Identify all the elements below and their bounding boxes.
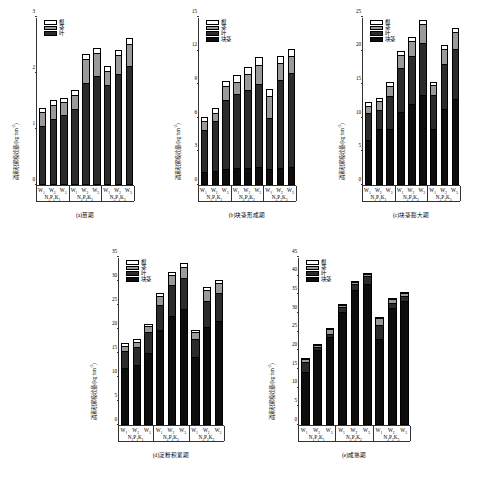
x-group-separator — [427, 186, 428, 201]
stacked-bar[interactable] — [419, 18, 427, 185]
bar-group-N1P1K1 — [119, 258, 154, 425]
legend-item: 根 — [126, 260, 151, 265]
chart-panel-d: 05101520253035根茎叶块茎W1W2W3W1W2W3W1W2W3N1P… — [84, 248, 224, 424]
stacked-bar[interactable] — [266, 18, 274, 185]
stacked-bar[interactable] — [126, 18, 134, 185]
bar-segment-tuber — [365, 140, 373, 185]
stacked-bar[interactable] — [191, 258, 199, 425]
stacked-bar[interactable] — [201, 18, 209, 185]
chart-panel-e: 051015202530354045根茎叶块茎W1W2W3W1W2W3W1W2W… — [262, 248, 410, 424]
x-group-separator — [460, 186, 461, 201]
stacked-bar[interactable] — [376, 18, 384, 185]
stacked-bar[interactable] — [365, 18, 373, 185]
stacked-bar[interactable] — [408, 18, 416, 185]
stacked-bar[interactable] — [203, 258, 211, 425]
chart-panel-b: 03691215根茎叶块茎W1W2W3W1W2W3W1W2W3N1P1K1N2P… — [168, 8, 296, 184]
bar-segment-tuber — [133, 365, 141, 425]
stacked-bar[interactable] — [50, 18, 58, 185]
stacked-bar[interactable] — [277, 18, 285, 185]
legend-item: 茎 — [306, 266, 331, 271]
legend-e: 根茎叶块茎 — [306, 260, 331, 282]
legend-swatch-tuber — [370, 37, 383, 42]
bar-segment-tuber — [441, 109, 449, 185]
bar-segment-leaf — [244, 90, 252, 167]
x-group-separator — [410, 426, 411, 441]
x-group-separator — [69, 186, 70, 201]
plot-area-a: 0123 — [36, 18, 134, 186]
bar-segment-leaf — [301, 362, 310, 371]
stacked-bar[interactable] — [326, 258, 335, 425]
bar-group-N2P2K2 — [70, 18, 103, 185]
bar-segment-tuber — [168, 316, 176, 425]
y-tick-label: 15 — [192, 9, 199, 14]
y-tick-label: 35 — [112, 249, 119, 254]
bar-segment-tuber — [408, 104, 416, 185]
stacked-bar[interactable] — [351, 258, 360, 425]
legend-label: 块茎 — [221, 37, 231, 42]
figure-root: 0123根茎叶W1W2W3W1W2W3W1W2W3N1P1K1N2P2K2N3P… — [0, 0, 496, 477]
stacked-bar[interactable] — [222, 18, 230, 185]
stacked-bar[interactable] — [363, 258, 372, 425]
bar-segment-tuber — [156, 330, 164, 425]
stacked-bar[interactable] — [39, 18, 47, 185]
bar-segment-leaf — [408, 56, 416, 104]
legend-swatch-leaf — [306, 271, 319, 276]
stacked-bar[interactable] — [156, 258, 164, 425]
bar-segment-leaf — [222, 100, 230, 168]
stacked-bar[interactable] — [71, 18, 79, 185]
bar-segment-tuber — [375, 339, 384, 425]
stacked-bar[interactable] — [60, 18, 68, 185]
bar-segment-stem — [441, 49, 449, 64]
legend-c: 根茎叶块茎 — [370, 20, 395, 42]
bar-segment-leaf — [441, 64, 449, 109]
x-group-separator — [362, 186, 363, 201]
stacked-bar[interactable] — [180, 258, 188, 425]
y-axis-title: 磷素积累吸收量/(kg·hm-2) — [90, 363, 97, 420]
stacked-bar[interactable] — [82, 18, 90, 185]
stacked-bar[interactable] — [313, 258, 322, 425]
stacked-bar[interactable] — [301, 258, 310, 425]
stacked-bar[interactable] — [144, 258, 152, 425]
bar-segment-stem — [244, 74, 252, 90]
bar-segment-root — [288, 49, 296, 56]
bar-segment-tuber — [400, 301, 409, 425]
stacked-bar[interactable] — [388, 258, 397, 425]
y-tick-label: 25 — [292, 324, 299, 329]
stacked-bar[interactable] — [121, 258, 129, 425]
bar-segment-leaf — [375, 325, 384, 339]
bar-segment-leaf — [201, 130, 209, 172]
stacked-bar[interactable] — [400, 258, 409, 425]
stacked-bar[interactable] — [397, 18, 405, 185]
stacked-bar[interactable] — [386, 18, 394, 185]
stacked-bar[interactable] — [244, 18, 252, 185]
stacked-bar[interactable] — [375, 258, 384, 425]
stacked-bar[interactable] — [133, 258, 141, 425]
stacked-bar[interactable] — [168, 258, 176, 425]
bar-segment-leaf — [452, 49, 460, 99]
stacked-bar[interactable] — [115, 18, 123, 185]
bar-segment-tuber — [180, 309, 188, 425]
stacked-bar[interactable] — [212, 18, 220, 185]
legend-swatch-root — [306, 260, 319, 265]
bar-group-N3P3K3 — [374, 258, 411, 425]
legend-swatch-root — [44, 20, 57, 25]
stacked-bar[interactable] — [93, 18, 101, 185]
stacked-bar[interactable] — [452, 18, 460, 185]
stacked-bar[interactable] — [233, 18, 241, 185]
stacked-bar[interactable] — [255, 18, 263, 185]
bar-segment-tuber — [326, 337, 335, 425]
stacked-bar[interactable] — [288, 18, 296, 185]
bar-segment-tuber — [233, 168, 241, 185]
y-tick-label: 35 — [292, 287, 299, 292]
y-axis-title: 磷素积累吸收量/(kg·hm-2) — [12, 123, 19, 180]
bar-segment-leaf — [71, 109, 79, 185]
legend-item: 根 — [206, 20, 231, 25]
stacked-bar[interactable] — [441, 18, 449, 185]
bar-group-N1P1K1 — [363, 18, 396, 185]
legend-swatch-leaf — [206, 31, 219, 36]
bar-segment-tuber — [376, 129, 384, 185]
stacked-bar[interactable] — [215, 258, 223, 425]
stacked-bar[interactable] — [430, 18, 438, 185]
stacked-bar[interactable] — [338, 258, 347, 425]
stacked-bar[interactable] — [104, 18, 112, 185]
